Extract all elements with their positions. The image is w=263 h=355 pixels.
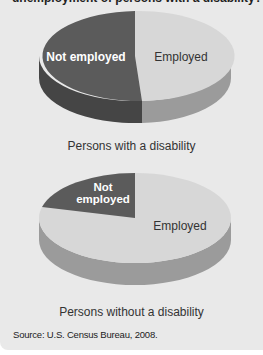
figure-panel: unemployment of persons with a disabilit… bbox=[0, 0, 263, 350]
pie-without-disability: Not employed Employed bbox=[39, 173, 231, 285]
pie-charts: Not employed Employed Not employed Emplo… bbox=[0, 0, 263, 355]
pie2-not-employed-label-line2: employed bbox=[76, 193, 130, 205]
pie-with-disability: Not employed Employed bbox=[39, 11, 235, 123]
pie2-employed-label: Employed bbox=[153, 219, 206, 233]
pie1-caption: Persons with a disability bbox=[0, 139, 263, 153]
pie2-caption: Persons without a disability bbox=[0, 305, 263, 319]
source-note: Source: U.S. Census Bureau, 2008. bbox=[13, 329, 157, 340]
pie1-employed-label: Employed bbox=[154, 50, 207, 64]
pie1-not-employed-label: Not employed bbox=[46, 50, 125, 64]
pie2-not-employed-label-line1: Not bbox=[93, 181, 112, 193]
